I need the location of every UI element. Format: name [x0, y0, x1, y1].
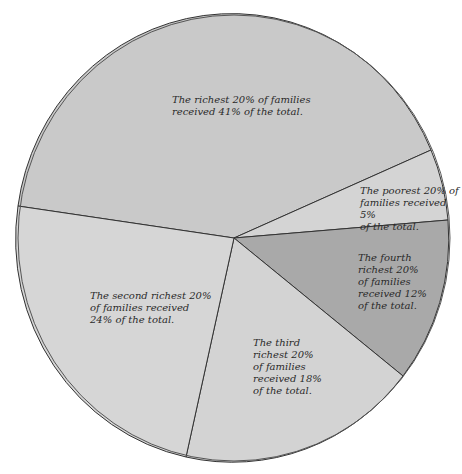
label-third: The third richest 20% of families receiv…	[253, 337, 322, 397]
label-fourth: The fourth richest 20% of families recei…	[358, 252, 427, 312]
label-poorest: The poorest 20% of families received 5% …	[360, 185, 462, 233]
label-second: The second richest 20% of families recei…	[90, 290, 211, 326]
label-richest: The richest 20% of families received 41%…	[172, 94, 311, 118]
pie-chart	[0, 0, 462, 474]
